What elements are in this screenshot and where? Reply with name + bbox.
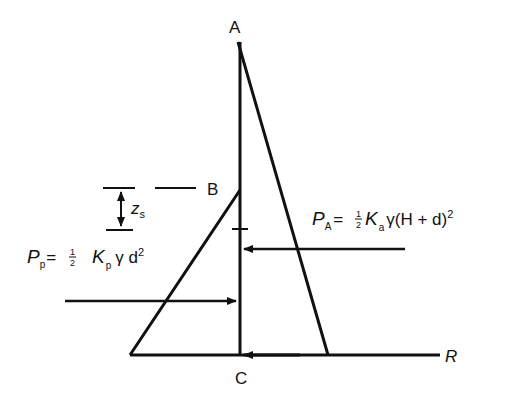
active-force-rhs: Kaγ(H + d)2 bbox=[365, 208, 453, 233]
passive-pressure-edge bbox=[130, 190, 240, 355]
point-a-label: A bbox=[229, 18, 241, 37]
active-frac-num: 1 bbox=[356, 209, 361, 219]
zs-label: zs bbox=[130, 199, 146, 220]
passive-frac-num: 1 bbox=[70, 247, 75, 257]
point-c-label: C bbox=[235, 369, 247, 388]
active-pressure-edge bbox=[238, 42, 328, 355]
earth-pressure-diagram: A B C R zs PA= 1 2 Kaγ(H + d)2 Pp= 1 2 K… bbox=[0, 0, 519, 410]
active-frac-den: 2 bbox=[356, 220, 361, 230]
passive-force-rhs: Kpγ d2 bbox=[92, 246, 144, 271]
passive-frac-den: 2 bbox=[70, 258, 75, 268]
resultant-label: R bbox=[445, 347, 457, 366]
passive-force-equation: Pp= bbox=[27, 246, 56, 270]
active-force-equation: PA= bbox=[312, 208, 343, 232]
point-b-label: B bbox=[207, 180, 218, 199]
